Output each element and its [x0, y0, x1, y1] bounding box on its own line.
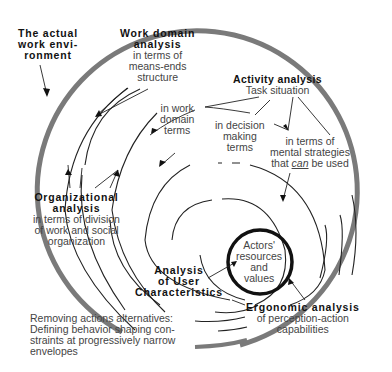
arrow-icon [151, 128, 158, 134]
label-user-characteristics: Analysis of User Characteristics [135, 265, 223, 298]
label-organizational-analysis: Organizational analysis in terms of divi… [33, 192, 120, 247]
label-work-domain-terms: in work domain terms [160, 103, 194, 136]
arrow-icon [43, 88, 50, 97]
label-actors-resources: Actors' resources and values [236, 240, 282, 284]
label-mental-strategies: in terms of mental strategies that can b… [270, 136, 350, 169]
label-work-environment: The actual work envi- ronment [18, 28, 78, 61]
label-activity-analysis: Activity analysis Task situation [233, 74, 322, 96]
arrow-icon [280, 195, 286, 202]
label-constraints: Removing actions alternatives: Defining … [30, 313, 175, 357]
outer-ring-end [195, 340, 247, 347]
label-ergonomic-analysis: Ergonomic analysis of perception-action … [246, 302, 360, 335]
arrow-icon [159, 160, 166, 167]
label-decision-terms: in decision making terms [215, 120, 265, 153]
label-work-domain-analysis: Work domain analysis in terms of means-e… [120, 28, 195, 83]
